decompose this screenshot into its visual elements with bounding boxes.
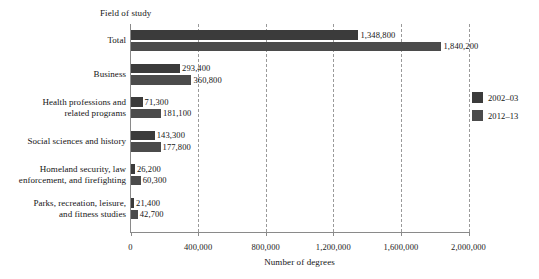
bar — [131, 109, 162, 119]
bar — [131, 42, 442, 52]
legend-label: 2012–13 — [488, 111, 518, 121]
category-axis-title: Field of study — [100, 8, 151, 18]
category-label: Homeland security, lawenforcement, and f… — [19, 164, 126, 185]
bar-value-label: 42,700 — [140, 210, 164, 219]
bar-value-label: 177,800 — [163, 143, 191, 152]
gridline — [333, 24, 334, 232]
bar-row: 143,300 — [131, 131, 186, 141]
category-label-line: and fitness studies — [33, 209, 126, 220]
category-label-line: Total — [107, 35, 126, 46]
bar-value-label: 1,840,200 — [443, 42, 478, 51]
legend-swatch — [472, 110, 483, 121]
bar-value-label: 143,300 — [157, 131, 185, 140]
x-axis-tick-label: 2,000,000 — [451, 242, 486, 252]
bar-chart: Field of study 0400,000800,0001,200,0001… — [0, 0, 539, 279]
category-label-line: Homeland security, law — [19, 164, 126, 175]
bar-value-label: 71,300 — [145, 98, 169, 107]
x-axis-tick — [266, 232, 267, 236]
legend-item[interactable]: 2002–03 — [472, 92, 518, 103]
bar-row: 26,200 — [131, 164, 161, 174]
x-axis-tick-label: 1,200,000 — [316, 242, 351, 252]
x-axis-tick-label: 800,000 — [252, 242, 280, 252]
bar-row: 1,840,200 — [131, 42, 479, 52]
bar — [131, 131, 155, 141]
x-axis-line — [130, 232, 470, 233]
x-axis-tick-label: 400,000 — [184, 242, 212, 252]
gridline — [401, 24, 402, 232]
category-label-line: enforcement, and firefighting — [19, 175, 126, 186]
category-label-line: Parks, recreation, leisure, — [33, 198, 126, 209]
bar-row: 1,348,800 — [131, 30, 396, 40]
legend-swatch — [472, 92, 483, 103]
bar-value-label: 293,400 — [182, 64, 210, 73]
x-axis-tick — [469, 232, 470, 236]
bar-value-label: 1,348,800 — [360, 31, 395, 40]
x-axis-tick — [333, 232, 334, 236]
legend-item[interactable]: 2012–13 — [472, 110, 518, 121]
bar-row: 360,800 — [131, 75, 222, 85]
x-axis-tick-label: 0 — [128, 242, 132, 252]
x-axis-tick-label: 1,600,000 — [383, 242, 418, 252]
bar-row: 42,700 — [131, 210, 164, 220]
bar — [131, 64, 181, 74]
category-label-line: Business — [94, 69, 126, 80]
bar-row: 21,400 — [131, 198, 161, 208]
legend: 2002–032012–13 — [472, 92, 518, 128]
x-axis-tick — [401, 232, 402, 236]
gridline — [469, 24, 470, 232]
x-axis-tick — [198, 232, 199, 236]
bar — [131, 142, 161, 152]
bar — [131, 210, 138, 220]
bar — [131, 75, 192, 85]
bar — [131, 176, 141, 186]
legend-label: 2002–03 — [488, 93, 518, 103]
category-label: Health professions andrelated programs — [42, 97, 126, 118]
bar-row: 177,800 — [131, 142, 191, 152]
bar-value-label: 60,300 — [143, 176, 167, 185]
gridline — [198, 24, 199, 232]
category-label-line: related programs — [42, 108, 126, 119]
gridline — [266, 24, 267, 232]
bar-value-label: 26,200 — [137, 165, 161, 174]
bar-row: 71,300 — [131, 97, 169, 107]
bar-value-label: 181,100 — [163, 109, 191, 118]
plot-area: 0400,000800,0001,200,0001,600,0002,000,0… — [131, 24, 469, 232]
category-label: Social sciences and history — [27, 136, 126, 147]
x-axis-title: Number of degrees — [131, 257, 469, 267]
bar — [131, 198, 135, 208]
bar-value-label: 360,800 — [193, 76, 221, 85]
bar-row: 293,400 — [131, 64, 211, 74]
bar — [131, 164, 135, 174]
category-label-line: Social sciences and history — [27, 136, 126, 147]
category-label-line: Health professions and — [42, 97, 126, 108]
bar-row: 181,100 — [131, 109, 192, 119]
category-label: Business — [94, 69, 126, 80]
category-label: Parks, recreation, leisure,and fitness s… — [33, 198, 126, 219]
category-label: Total — [107, 35, 126, 46]
x-axis-tick — [131, 232, 132, 236]
bar — [131, 97, 143, 107]
bar-row: 60,300 — [131, 176, 167, 186]
bar-value-label: 21,400 — [136, 199, 160, 208]
bar — [131, 30, 359, 40]
